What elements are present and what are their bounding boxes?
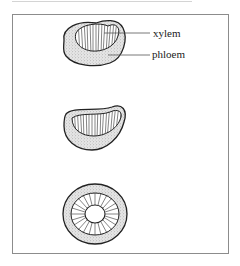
bottom-section-specimen [63,184,127,244]
pith-center [85,205,105,223]
top-section-specimen [64,20,151,66]
middle-section-specimen [64,104,125,150]
xylem-label: xylem [153,27,181,39]
phloem-label: phloem [152,48,185,60]
vascular-bundle-diagram [0,0,240,266]
